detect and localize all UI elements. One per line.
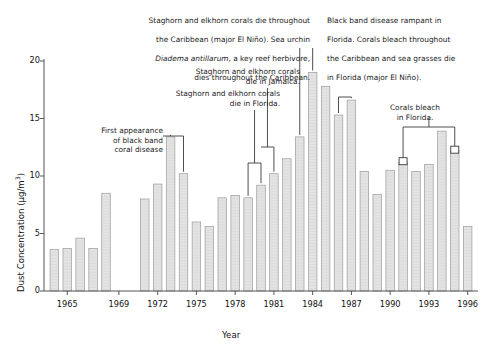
bar xyxy=(334,115,343,291)
bar xyxy=(463,227,472,291)
dust-concentration-chart: Dust Concentration (µg/m3) Year 05101520… xyxy=(0,0,484,354)
bar xyxy=(270,174,279,291)
x-tick-label: 1978 xyxy=(219,299,251,309)
marker-corals-bleach-1991 xyxy=(399,158,407,165)
x-tick-label: 1972 xyxy=(142,299,174,309)
annotation-first-appearance: First appearance of black band coral dis… xyxy=(58,126,163,155)
marker-corals-bleach-1995 xyxy=(451,146,459,153)
x-tick-label: 1969 xyxy=(103,299,135,309)
y-tick-label: 0 xyxy=(22,285,40,295)
x-tick-label: 1975 xyxy=(180,299,212,309)
x-tick-label: 1993 xyxy=(413,299,445,309)
y-tick-label: 10 xyxy=(22,170,40,180)
x-tick-label: 1990 xyxy=(374,299,406,309)
bar xyxy=(166,137,175,291)
bar xyxy=(153,184,162,291)
y-tick-label: 15 xyxy=(22,113,40,123)
bar xyxy=(205,227,214,291)
annotation-corals-bleach-florida: Corals bleach in Florida. xyxy=(370,103,460,122)
y-tick-label: 20 xyxy=(22,55,40,65)
annotation-caribbean-species: Diadema antillarum xyxy=(155,54,228,63)
bar xyxy=(192,222,201,291)
bar xyxy=(218,198,227,291)
bar xyxy=(399,162,408,291)
annotation-staghorn-florida: Staghorn and elkhorn corals die in Flori… xyxy=(120,89,280,108)
bar xyxy=(102,193,111,291)
bar xyxy=(295,137,304,291)
annotation-blackband-line3: the Caribbean and sea grasses die xyxy=(327,54,455,63)
bar xyxy=(373,194,382,291)
bar xyxy=(425,165,434,292)
annotation-blackband-line1: Black band disease rampant in xyxy=(327,16,441,25)
x-tick-label: 1984 xyxy=(297,299,329,309)
annotation-blackband-line2: Florida. Corals bleach throughout xyxy=(327,35,450,44)
annotation-caribbean-line1: Staghorn and elkhorn corals die througho… xyxy=(149,16,310,25)
x-axis-label: Year xyxy=(222,330,240,340)
annotation-caribbean-line4: dies throughout the Caribbean. xyxy=(194,73,310,82)
annotation-black-band-rampant: Black band disease rampant in Florida. C… xyxy=(327,6,477,83)
annotation-blackband-line4: in Florida (major El Niño). xyxy=(327,73,421,82)
y-tick-label: 5 xyxy=(22,228,40,238)
x-tick-label: 1987 xyxy=(335,299,367,309)
x-tick-label: 1965 xyxy=(51,299,83,309)
x-tick-label: 1996 xyxy=(452,299,484,309)
bar xyxy=(244,198,253,291)
bar xyxy=(347,100,356,291)
annotation-caribbean-diadema: Staghorn and elkhorn corals die througho… xyxy=(110,6,310,83)
annotation-caribbean-line2: the Caribbean (major El Niño). Sea urchi… xyxy=(156,35,310,44)
annotation-caribbean-line3-tail: , a key reef herbivore, xyxy=(229,54,310,63)
bar xyxy=(179,174,188,291)
y-axis-label-exponent: 3 xyxy=(14,176,21,180)
x-tick-label: 1981 xyxy=(258,299,290,309)
